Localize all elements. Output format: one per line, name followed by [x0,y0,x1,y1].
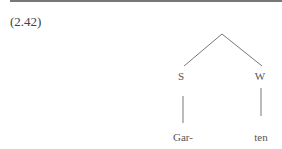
branch-left [184,34,222,66]
leaf-syllable-2: ten [254,131,267,143]
node-weak: W [255,70,265,82]
tree-diagram [0,0,282,149]
branch-right [222,34,262,66]
leaf-syllable-1: Gar- [173,131,193,143]
node-strong: S [178,70,184,82]
